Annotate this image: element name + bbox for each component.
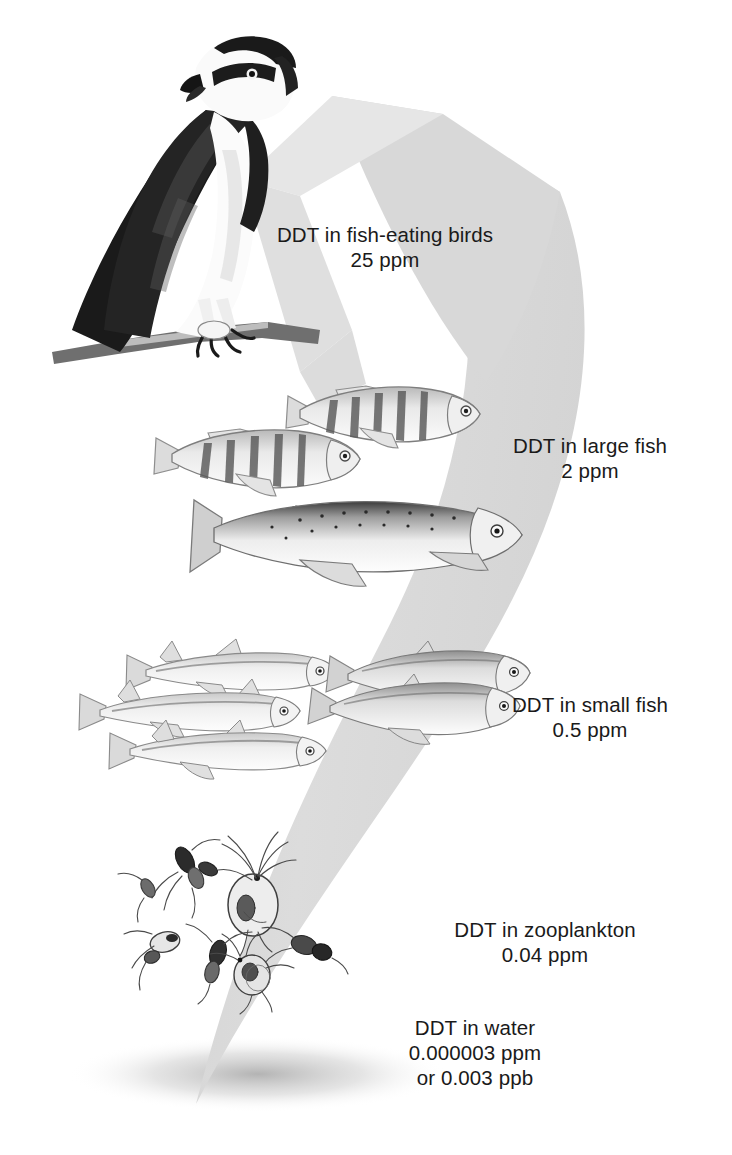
label-organism: DDT in small fish xyxy=(480,692,700,717)
label-organism: DDT in fish-eating birds xyxy=(250,222,520,247)
daphnia-large xyxy=(218,832,296,956)
copepod-4 xyxy=(262,927,348,974)
label-concentration: 25 ppm xyxy=(250,247,520,272)
label-concentration: 0.5 ppm xyxy=(480,717,700,742)
label-organism: DDT in water xyxy=(340,1015,610,1040)
label-water: DDT in water 0.000003 ppm or 0.003 ppb xyxy=(340,1015,610,1090)
label-organism: DDT in large fish xyxy=(480,433,700,458)
label-small-fish: DDT in small fish 0.5 ppm xyxy=(480,692,700,742)
label-concentration: 2 ppm xyxy=(480,458,700,483)
label-organism: DDT in zooplankton xyxy=(420,917,670,942)
label-fish-eating-birds: DDT in fish-eating birds 25 ppm xyxy=(250,222,520,272)
label-concentration: 0.04 ppm xyxy=(420,942,670,967)
biomagnification-figure: DDT in fish-eating birds 25 ppm DDT in l… xyxy=(0,0,732,1155)
label-zooplankton: DDT in zooplankton 0.04 ppm xyxy=(420,917,670,967)
copepod-2 xyxy=(124,929,182,990)
label-large-fish: DDT in large fish 2 ppm xyxy=(480,433,700,483)
label-concentration-alt: or 0.003 ppb xyxy=(340,1065,610,1090)
label-concentration: 0.000003 ppm xyxy=(340,1040,610,1065)
copepod-1 xyxy=(152,839,220,918)
zooplankton-cluster-icon xyxy=(0,0,732,1155)
